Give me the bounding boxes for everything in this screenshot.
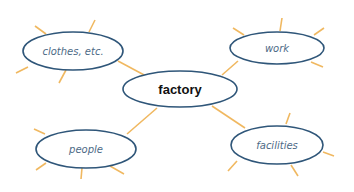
node-label-clothes: clothes, etc.: [42, 46, 103, 57]
center-node-label: factory: [158, 82, 201, 97]
mind-map: factory clothes, etc. work people facili…: [0, 0, 354, 192]
node-label-people: people: [69, 144, 103, 155]
node-label-facilities: facilities: [256, 140, 298, 151]
node-label-work: work: [265, 43, 289, 54]
